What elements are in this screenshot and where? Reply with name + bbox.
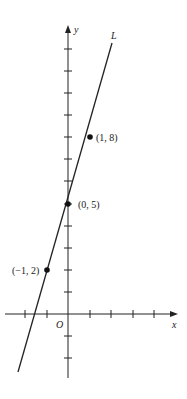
point-0-5 [65, 201, 71, 207]
line-label: L [110, 30, 117, 41]
point-label-1-8: (1, 8) [96, 132, 118, 144]
x-axis [5, 310, 178, 318]
y-axis-label: y [73, 24, 79, 35]
point-label-0-5: (0, 5) [78, 199, 100, 211]
x-axis-arrow-icon [170, 311, 178, 317]
x-axis-label: x [171, 319, 177, 330]
coordinate-plane: y x O L (1, 8) (0, 5) (−1, 2) [0, 0, 187, 399]
point-label-neg1-2: (−1, 2) [12, 265, 39, 277]
y-axis-arrow-icon [65, 25, 71, 33]
point-neg1-2 [44, 267, 50, 273]
point-1-8 [87, 134, 93, 140]
origin-label: O [56, 319, 63, 330]
